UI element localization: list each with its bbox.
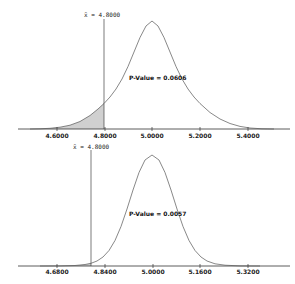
tick-label: 4.6000 [45, 132, 68, 139]
pvalue-figure: x̄ = 4.8000 P-Value = 0.0606 4.6000 4.80… [0, 0, 295, 284]
tick-label: 4.8000 [93, 132, 116, 139]
pvalue-label: P-Value = 0.0057 [129, 210, 186, 217]
tick-label: 4.6800 [45, 268, 68, 275]
tick-label: 4.8400 [93, 268, 116, 275]
chart-bottom: x̄ = 4.8000 P-Value = 0.0057 4.6800 4.84… [18, 143, 290, 275]
tick-label: 5.0000 [141, 268, 164, 275]
xbar-label: x̄ = 4.8000 [73, 143, 110, 150]
chart-top: x̄ = 4.8000 P-Value = 0.0606 4.6000 4.80… [18, 11, 290, 139]
tick-label: 5.3200 [236, 268, 259, 275]
tick-label: 5.0000 [140, 132, 163, 139]
pvalue-label: P-Value = 0.0606 [129, 74, 186, 81]
shaded-left-tail [30, 104, 104, 130]
tick-label: 5.2000 [188, 132, 211, 139]
tick-label: 5.1600 [188, 268, 211, 275]
xbar-label: x̄ = 4.8000 [84, 11, 121, 18]
tick-label: 5.4000 [236, 132, 259, 139]
